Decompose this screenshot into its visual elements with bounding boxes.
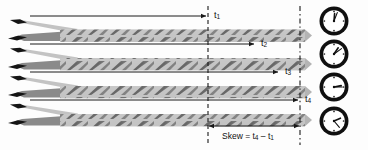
label-t2: t2 xyxy=(261,38,267,48)
clock-2 xyxy=(320,40,349,69)
cable-2-end xyxy=(305,58,312,70)
clock-3 xyxy=(320,73,349,102)
label-t1: t1 xyxy=(214,10,220,20)
skew-label: Skew = t4 – t1 xyxy=(222,131,274,141)
clock-4 xyxy=(320,107,349,136)
cable-4-end xyxy=(305,114,312,126)
cable-1-end xyxy=(305,30,312,42)
cable-3 xyxy=(8,76,312,99)
label-t3: t3 xyxy=(285,66,291,76)
cable-1-twist xyxy=(60,30,305,42)
clock-1 xyxy=(320,7,349,36)
cable-4-twist xyxy=(60,114,305,126)
skew-diagram: t1 t2 t3 t4 Skew = t4 – t1 xyxy=(0,0,368,150)
cable-4 xyxy=(8,104,312,127)
label-t4: t4 xyxy=(305,94,311,104)
diagram-canvas xyxy=(0,0,368,150)
cable-2 xyxy=(8,48,312,70)
cable-3-twist xyxy=(60,86,305,98)
cable-2-twist xyxy=(60,58,305,70)
